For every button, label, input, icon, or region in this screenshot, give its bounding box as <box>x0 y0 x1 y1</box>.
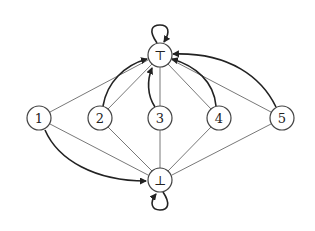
node-top: ⊤ <box>148 43 172 67</box>
edge-2-bot <box>108 127 152 171</box>
node-4: 4 <box>207 106 231 130</box>
node-2: 2 <box>88 106 112 130</box>
node-3-label: 3 <box>156 111 164 126</box>
node-1: 1 <box>27 106 51 130</box>
self-loop-bot <box>152 192 168 210</box>
edge-5-top <box>172 60 271 112</box>
arrow-2-to-top <box>103 59 147 106</box>
nodes: ⊤ ⊥ 1 2 3 4 5 <box>27 43 294 192</box>
node-5-label: 5 <box>278 111 286 126</box>
edge-4-top <box>168 64 211 109</box>
node-bot: ⊥ <box>148 168 172 192</box>
arrow-4-to-top <box>172 59 216 106</box>
edge-5-bot <box>172 124 271 175</box>
node-1-label: 1 <box>35 111 43 126</box>
node-top-label: ⊤ <box>154 48 166 63</box>
graph-diagram: ⊤ ⊥ 1 2 3 4 5 <box>0 0 315 231</box>
arrow-5-to-top <box>173 54 276 107</box>
edge-2-top <box>108 64 152 109</box>
node-4-label: 4 <box>215 111 223 126</box>
node-3: 3 <box>148 106 172 130</box>
edge-1-bot <box>50 124 148 175</box>
edge-4-bot <box>168 127 211 171</box>
node-2-label: 2 <box>96 111 104 126</box>
node-5: 5 <box>270 106 294 130</box>
arrow-1-to-bot <box>45 130 146 181</box>
edge-1-top <box>50 60 148 112</box>
arrow-3-to-top <box>149 68 155 107</box>
self-loop-top <box>152 25 168 43</box>
node-bot-label: ⊥ <box>154 173 166 188</box>
